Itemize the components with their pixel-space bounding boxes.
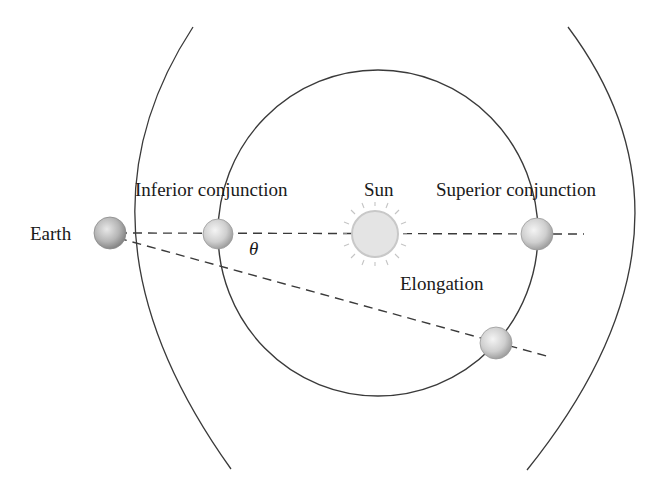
planet-superior-conjunction [521,218,553,250]
diagram-canvas [0,0,670,494]
planet-elongation [480,327,512,359]
label-elongation: Elongation [400,274,483,293]
planet-inferior-conjunction [203,219,233,249]
label-earth: Earth [30,224,71,243]
label-inferior-conjunction: Inferior conjunction [135,180,287,199]
earth-planet [94,217,126,249]
label-superior-conjunction: Superior conjunction [436,180,596,199]
label-sun: Sun [364,180,394,199]
sun-icon [352,211,398,257]
line-of-sight-conjunction [118,233,584,234]
label-theta-angle: θ [249,239,258,258]
